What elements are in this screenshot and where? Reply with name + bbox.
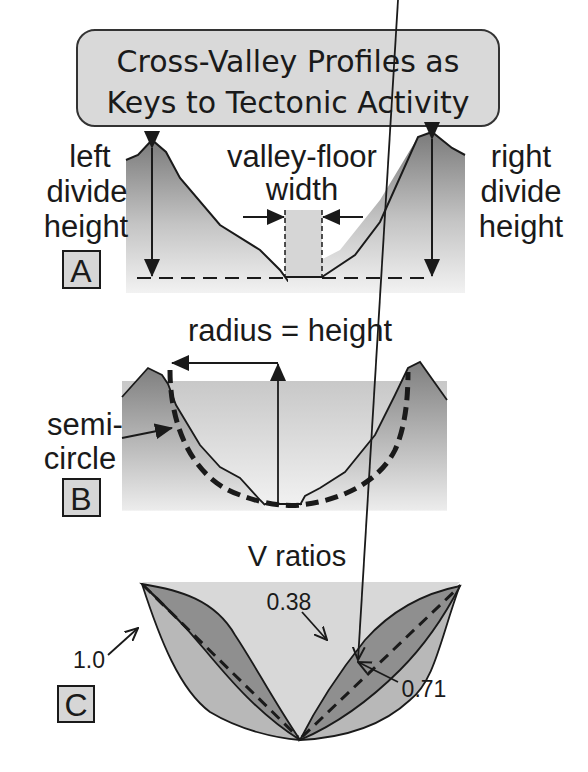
left-label-1: left	[69, 139, 111, 174]
right-label-1: right	[491, 139, 552, 174]
semi-label-2: circle	[44, 441, 116, 476]
v-ratios-title: V ratios	[248, 540, 346, 572]
panel-b-letter: B	[70, 481, 91, 517]
left-label-3: height	[44, 209, 129, 244]
panel-b: radius = height semi- circle B	[44, 313, 447, 517]
value-1-0: 1.0	[73, 647, 105, 673]
center-label-1: valley-floor	[227, 139, 377, 174]
valley-floor-box	[285, 210, 322, 277]
center-label-2: width	[265, 172, 338, 207]
right-label-2: divide	[481, 174, 562, 209]
panel-a-letter: A	[70, 253, 92, 289]
panel-a: left divide height right divide height v…	[44, 132, 564, 293]
title-line-1: Cross-Valley Profiles as	[117, 44, 460, 79]
right-label-3: height	[479, 209, 564, 244]
diagram-canvas: Cross-Valley Profiles as Keys to Tectoni…	[0, 0, 588, 772]
value-0-71: 0.71	[402, 676, 447, 702]
title-line-2: Keys to Tectonic Activity	[106, 85, 469, 120]
panel-c-letter: C	[64, 687, 87, 723]
left-label-2: divide	[47, 174, 128, 209]
radius-label: radius = height	[188, 313, 393, 348]
value-0-38: 0.38	[267, 589, 312, 615]
semi-label-1: semi-	[47, 407, 123, 442]
title-box: Cross-Valley Profiles as Keys to Tectoni…	[77, 30, 499, 126]
pointer-1-0	[108, 628, 138, 655]
